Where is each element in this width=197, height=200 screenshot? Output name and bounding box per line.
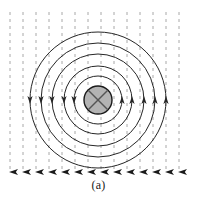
figure-container: (a) <box>0 0 197 200</box>
field-diagram-svg <box>0 0 197 200</box>
figure-caption: (a) <box>0 178 197 193</box>
wire-current-symbol <box>84 86 112 114</box>
